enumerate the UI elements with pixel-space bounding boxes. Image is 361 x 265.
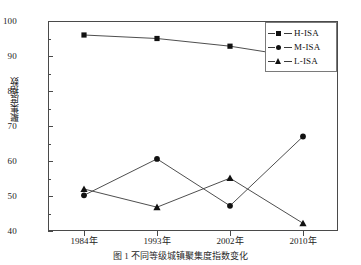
data-point	[227, 44, 232, 49]
series-line	[84, 178, 303, 223]
data-point	[227, 203, 233, 209]
data-point	[154, 36, 159, 41]
legend-label: H-ISA	[294, 28, 319, 38]
series-line	[84, 137, 303, 206]
figure: 聚集度指数 100 90 80 70 60 50 40 1984年 1993年 …	[0, 0, 361, 265]
legend-label: M-ISA	[294, 42, 321, 52]
legend-label: L-ISA	[294, 56, 318, 66]
series-m-isa	[81, 134, 306, 209]
legend-item-l-isa[interactable]: L-ISA	[268, 54, 333, 68]
data-point	[226, 175, 233, 182]
square-marker-icon	[268, 28, 294, 39]
data-point	[81, 192, 87, 198]
data-point	[300, 134, 306, 140]
data-point	[154, 156, 160, 162]
legend-item-m-isa[interactable]: M-ISA	[268, 40, 333, 54]
data-point	[80, 185, 87, 192]
figure-caption: 图 1 不同等级城镇聚集度指数变化	[0, 250, 361, 262]
circle-marker-icon	[268, 42, 294, 53]
data-point	[81, 32, 86, 37]
data-point	[299, 220, 306, 227]
legend: H-ISA M-ISA L-ISA	[265, 22, 337, 72]
triangle-marker-icon	[268, 56, 294, 67]
legend-item-h-isa[interactable]: H-ISA	[268, 26, 333, 40]
